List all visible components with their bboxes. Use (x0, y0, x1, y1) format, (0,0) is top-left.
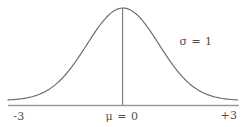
mean-label: μ = 0 (106, 110, 139, 123)
normal-distribution-figure: σ = 1 μ = 0 -3 +3 (0, 0, 245, 127)
left-axis-tick-label: -3 (13, 110, 25, 123)
sigma-annotation-label: σ = 1 (179, 35, 212, 48)
right-axis-tick-label: +3 (220, 109, 237, 122)
curve-canvas: σ = 1 μ = 0 -3 +3 (0, 0, 245, 127)
